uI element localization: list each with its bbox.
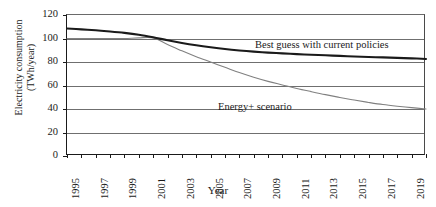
- y-tick-label-100: 100: [28, 33, 58, 44]
- annotation-energy-plus: Energy+ scenario: [218, 101, 292, 112]
- x-axis-title: Year: [0, 184, 436, 196]
- y-tick-label-120: 120: [28, 9, 58, 20]
- y-tick-label-0: 0: [28, 150, 58, 161]
- y-tick-label-20: 20: [28, 127, 58, 138]
- plot-area: Best guess with current policies Energy+…: [66, 14, 425, 155]
- chart-container: Electricity consumption (TWh/year) Best …: [0, 0, 436, 207]
- annotation-best-guess: Best guess with current policies: [255, 39, 389, 50]
- y-tick-label-60: 60: [28, 80, 58, 91]
- series-curves: [67, 15, 426, 156]
- y-axis-title-line1: Electricity consumption: [13, 20, 24, 116]
- y-tick-label-40: 40: [28, 103, 58, 114]
- x-tick-2020: [426, 154, 427, 158]
- y-tick-label-80: 80: [28, 56, 58, 67]
